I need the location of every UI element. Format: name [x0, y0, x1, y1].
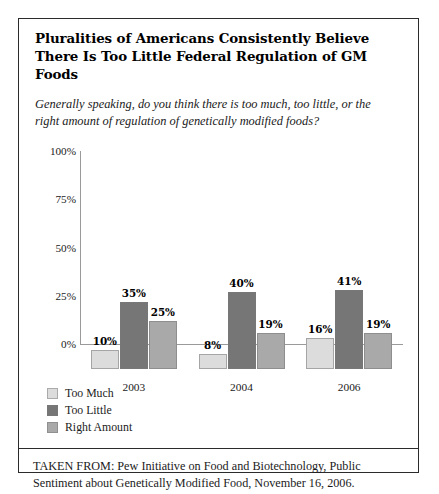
bar-value-label: 16%: [308, 323, 332, 335]
bar: [91, 350, 119, 369]
bar: [120, 302, 148, 370]
legend-label: Too Little: [65, 403, 112, 418]
bar-group: 10%35%25%2003: [91, 176, 177, 369]
bar-value-label: 19%: [366, 318, 390, 330]
legend-item: Too Little: [47, 403, 418, 418]
y-axis-tick-labels: 0%25%50%75%100%: [26, 144, 76, 345]
plot-area: 0%25%50%75%100% 10%35%25%20038%40%19%200…: [19, 144, 418, 370]
legend-label: Too Much: [65, 386, 114, 401]
y-tick-label: 50%: [32, 242, 76, 254]
legend-swatch: [47, 388, 58, 399]
chart-title: Pluralities of Americans Consistently Be…: [35, 30, 402, 83]
bar-value-label: 8%: [204, 339, 221, 351]
source-note-line-1: TAKEN FROM: Pew Initiative on Food and B…: [33, 459, 361, 473]
bar: [364, 333, 392, 370]
legend-swatch: [47, 422, 58, 433]
bar: [149, 321, 177, 369]
bar: [306, 338, 334, 369]
y-tick-label: 100%: [32, 145, 76, 157]
bar-value-label: 19%: [258, 318, 282, 330]
legend-swatch: [47, 405, 58, 416]
figure-panel: Pluralities of Americans Consistently Be…: [18, 18, 419, 473]
chart-legend: Too MuchToo LittleRight Amount: [47, 386, 418, 435]
bar-value-label: 41%: [337, 275, 361, 287]
bar-group: 16%41%19%2006: [306, 176, 392, 369]
y-tick-label: 25%: [32, 290, 76, 302]
bar: [199, 354, 227, 369]
bar-value-label: 40%: [229, 277, 253, 289]
y-tick-label: 75%: [32, 193, 76, 205]
x-tick-label: 2004: [230, 381, 253, 393]
bar: [228, 292, 256, 369]
bar-value-label: 10%: [93, 335, 117, 347]
bar-value-label: 35%: [122, 287, 146, 299]
legend-label: Right Amount: [65, 420, 132, 435]
source-note: TAKEN FROM: Pew Initiative on Food and B…: [19, 449, 418, 491]
bar-value-label: 25%: [151, 306, 175, 318]
legend-item: Right Amount: [47, 420, 418, 435]
y-tick-label: 0%: [32, 338, 76, 350]
y-axis-line: [80, 151, 81, 344]
x-tick-label: 2006: [338, 381, 361, 393]
bar-group: 8%40%19%2004: [199, 176, 285, 369]
chart-subtitle: Generally speaking, do you think there i…: [35, 96, 402, 130]
source-note-line-2: Sentiment about Genetically Modified Foo…: [33, 476, 355, 490]
figure-header: Pluralities of Americans Consistently Be…: [19, 19, 418, 130]
x-tick-label: 2003: [122, 381, 145, 393]
bar: [257, 333, 285, 370]
bar: [335, 290, 363, 369]
